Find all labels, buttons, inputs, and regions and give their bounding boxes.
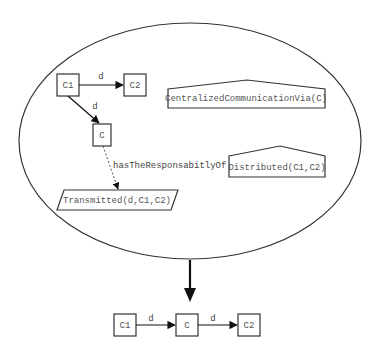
transform-arrow (184, 260, 196, 302)
node-c1-result[interactable]: C1 (114, 314, 136, 336)
predicate-distributed[interactable]: Distributed(C1,C2) (228, 146, 325, 177)
node-c2-top-label: C2 (130, 81, 141, 91)
edge-c-transmitted: hasTheResponsabitlyOf (103, 146, 226, 189)
node-c-result[interactable]: C (176, 314, 198, 336)
edge-c-transmitted-label: hasTheResponsabitlyOf (113, 161, 226, 171)
node-c2-result[interactable]: C2 (238, 314, 260, 336)
arrow-down-icon (184, 288, 196, 302)
predicate-centralized-label: CentralizedCommunicationVia(C) (165, 94, 327, 104)
predicate-centralized[interactable]: CentralizedCommunicationVia(C) (165, 80, 327, 108)
diagram-canvas: C1 C2 d C d hasTheResponsabitlyOf Transm… (0, 0, 377, 353)
edge-c1-c-result: d (136, 314, 175, 325)
edge-c1-c-result-label: d (148, 314, 153, 324)
node-c-top-label: C (99, 131, 105, 141)
node-c1-result-label: C1 (120, 321, 131, 331)
edge-c-c2-result: d (198, 314, 237, 325)
node-c-top[interactable]: C (93, 124, 111, 146)
node-c-result-label: C (184, 321, 190, 331)
edge-c-c2-result-label: d (210, 314, 215, 324)
predicate-transmitted-label: Transmitted(d,C1,C2) (63, 196, 171, 206)
predicate-transmitted[interactable]: Transmitted(d,C1,C2) (57, 190, 178, 210)
predicate-distributed-label: Distributed(C1,C2) (228, 163, 325, 173)
node-c1-top-label: C1 (63, 81, 74, 91)
edge-c1-c2-top-label: d (98, 72, 103, 82)
edge-c1-c-top: d (68, 96, 99, 123)
node-c2-result-label: C2 (244, 321, 255, 331)
node-c1-top[interactable]: C1 (57, 74, 79, 96)
scope-ellipse (19, 23, 361, 259)
edge-c1-c2-top: d (79, 72, 123, 85)
node-c2-top[interactable]: C2 (124, 74, 146, 96)
edge-c1-c-top-label: d (92, 102, 97, 112)
